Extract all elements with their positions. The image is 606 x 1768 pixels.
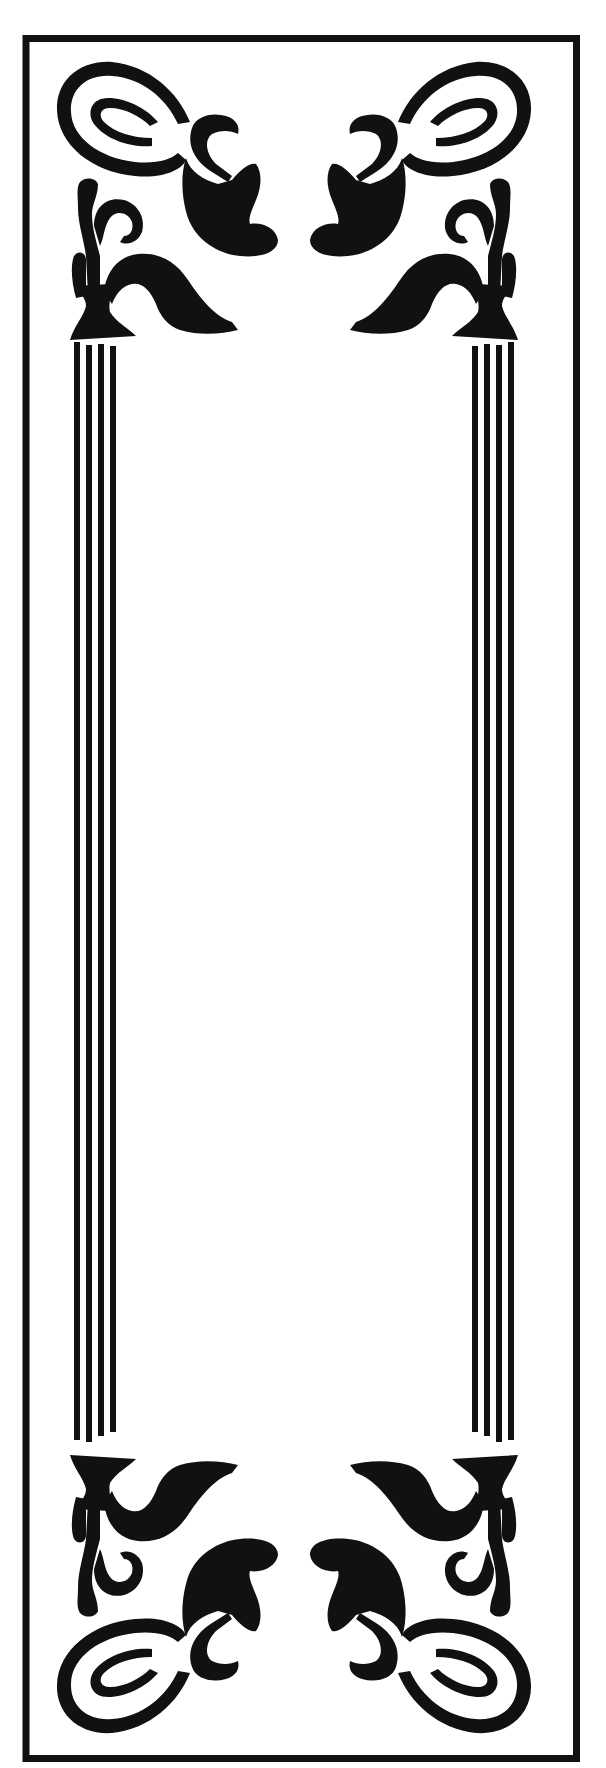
left-column-lines	[74, 342, 116, 1442]
corner-ornament-bottom-left	[57, 1455, 278, 1733]
corner-ornament-top-right	[310, 62, 531, 340]
corner-ornament-top-left	[57, 62, 278, 340]
ornamental-frame	[0, 0, 606, 1768]
corner-ornament-bottom-right	[310, 1455, 531, 1733]
right-column-lines	[472, 342, 514, 1442]
